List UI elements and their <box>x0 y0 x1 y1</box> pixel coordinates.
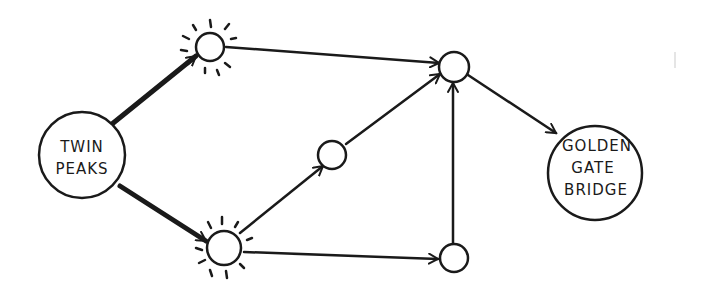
graph-diagram: TWIN PEAKS GOLDEN GATE BRIDGE <box>0 0 701 295</box>
edge-d-to-end <box>468 75 556 133</box>
node-label: GATE <box>571 159 614 177</box>
edge-start-to-a <box>112 56 196 124</box>
node-d <box>439 52 469 82</box>
edge-c-to-d <box>346 74 440 144</box>
node-b <box>207 231 241 265</box>
node-a <box>196 33 224 61</box>
node-label: GOLDEN <box>562 137 632 155</box>
edge-b-to-e <box>244 252 438 259</box>
node-label: BRIDGE <box>564 181 628 199</box>
edge-b-to-c <box>240 166 323 233</box>
node-e <box>440 244 468 272</box>
node-label: TWIN <box>59 138 104 156</box>
edge-start-to-b <box>120 186 206 241</box>
edge-a-to-d <box>226 47 439 63</box>
node-c <box>318 141 346 169</box>
node-twin-peaks: TWIN PEAKS <box>39 112 125 198</box>
node-golden-gate-bridge: GOLDEN GATE BRIDGE <box>548 126 642 220</box>
node-label: PEAKS <box>55 160 108 178</box>
